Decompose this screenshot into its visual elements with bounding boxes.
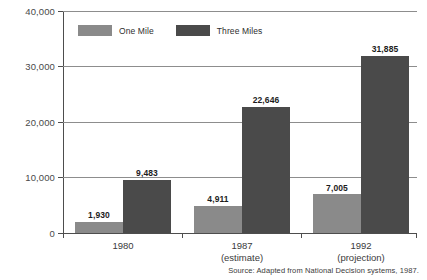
legend-label-one-mile: One Mile [119, 26, 154, 36]
bar-value-one-mile-1992: 7,005 [326, 183, 348, 193]
x-axis-label-1980-main: 1980 [112, 240, 133, 251]
x-tick-mark-end [416, 234, 417, 238]
bar-value-one-mile-1987: 4,911 [207, 194, 228, 204]
x-axis-label-1992-main: 1992 [350, 240, 371, 251]
plot-area: 1,930 9,483 4,911 22,646 7,005 31,885 [63, 11, 417, 233]
x-axis-label-1987: 1987 (estimate) [221, 240, 263, 264]
bar-one-mile-1987 [194, 206, 242, 233]
legend-swatch-three-miles [176, 25, 210, 36]
x-axis-label-1987-main: 1987 [231, 240, 252, 251]
bar-value-three-miles-1987: 22,646 [253, 95, 280, 105]
x-axis-label-1980: 1980 [112, 240, 133, 252]
x-axis-line [63, 233, 417, 234]
y-tick-label-20000: 20,000 [3, 117, 55, 128]
legend-swatch-one-mile [78, 25, 112, 36]
x-axis-label-1992-sub: (projection) [337, 252, 385, 264]
x-tick-mark-2 [301, 234, 302, 238]
bar-value-three-miles-1992: 31,885 [372, 44, 399, 54]
bar-three-miles-1987 [242, 107, 290, 233]
x-tick-mark-1 [182, 234, 183, 238]
x-tick-mark-start [63, 234, 64, 238]
legend-item-one-mile: One Mile [78, 25, 154, 36]
bar-value-three-miles-1980: 9,483 [136, 168, 158, 178]
bar-value-one-mile-1980: 1,930 [88, 210, 110, 220]
x-axis-label-1987-sub: (estimate) [221, 252, 263, 264]
bar-chart-figure: 40,000 30,000 20,000 10,000 0 1,930 9,48… [0, 0, 427, 280]
chart-legend: One Mile Three Miles [78, 25, 262, 36]
bar-one-mile-1992 [313, 194, 361, 233]
bar-three-miles-1980 [123, 180, 171, 233]
legend-label-three-miles: Three Miles [217, 26, 263, 36]
y-tick-label-40000: 40,000 [3, 6, 55, 17]
y-tick-label-10000: 10,000 [3, 172, 55, 183]
y-tick-label-0: 0 [3, 228, 55, 239]
bar-one-mile-1980 [75, 222, 123, 233]
y-axis-tick-labels: 40,000 30,000 20,000 10,000 0 [0, 0, 55, 280]
legend-item-three-miles: Three Miles [176, 25, 263, 36]
bar-three-miles-1992 [361, 56, 409, 233]
x-axis-label-1992: 1992 (projection) [337, 240, 385, 264]
gridline-40000 [63, 11, 417, 12]
y-tick-label-30000: 30,000 [3, 61, 55, 72]
source-note: Source: Adapted from National Decision s… [228, 266, 419, 275]
